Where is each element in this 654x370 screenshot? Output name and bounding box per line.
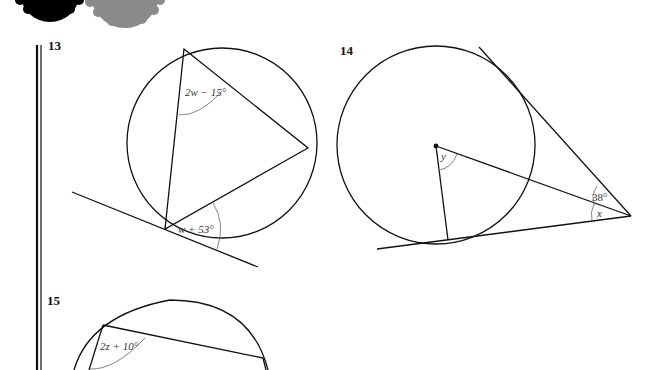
figure-15: [74, 300, 268, 370]
fig14-label-x: x: [597, 207, 602, 219]
question-number-15: 15: [47, 293, 60, 309]
fig13-tangent: [72, 192, 258, 267]
fig14-label-38: 38°: [592, 191, 607, 203]
fig13-angle-arc-bottom: [213, 203, 221, 249]
gear-icon-grey: [85, 0, 165, 28]
fig14-angle-arc-x: [591, 204, 594, 221]
gear-icon-black: [15, 0, 84, 22]
question-number-14: 14: [340, 43, 353, 59]
fig15-circle-arc: [74, 300, 268, 370]
fig13-triangle: [165, 49, 308, 229]
fig13-label-bottom-angle: w + 53°: [178, 223, 214, 235]
fig14-label-y: y: [441, 150, 446, 162]
fig14-tangent-upper: [479, 47, 631, 216]
question-number-13: 13: [48, 38, 61, 54]
margin-rule: [37, 45, 41, 370]
fig14-line-center-to-point: [436, 146, 631, 216]
textbook-page: 13 14 15 2w − 15° w + 53° y 38° x 2z + 1…: [0, 0, 654, 370]
fig15-label-top-left: 2z + 10°: [100, 340, 138, 352]
fig14-tangent-lower: [377, 216, 631, 249]
figure-14: [337, 46, 631, 249]
fig13-circle: [127, 48, 317, 238]
fig13-label-top-angle: 2w − 15°: [185, 86, 226, 98]
figures-canvas: [0, 0, 654, 370]
